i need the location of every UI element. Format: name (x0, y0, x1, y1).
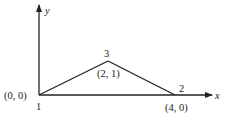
node-1-coord: (0, 0) (4, 90, 27, 102)
node-3-coord: (2, 1) (97, 68, 120, 80)
x-axis-label: x (214, 90, 220, 101)
node-2-label: 2 (179, 83, 184, 94)
node-2-coord: (4, 0) (165, 102, 188, 114)
triangle-element-diagram: y x 1 (0, 0) 3 (2, 1) 2 (4, 0) (0, 0, 231, 117)
node-1-label: 1 (36, 101, 41, 112)
y-axis-label: y (44, 5, 50, 16)
node-3-label: 3 (104, 48, 109, 59)
